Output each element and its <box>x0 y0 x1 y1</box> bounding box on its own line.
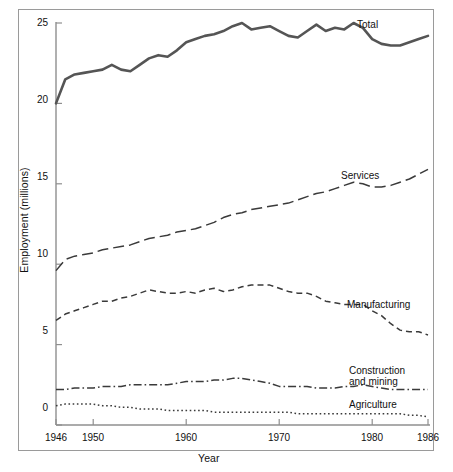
series-path-total <box>56 23 428 103</box>
y-tick-label-25: 25 <box>26 17 48 28</box>
series-label-manufacturing: Manufacturing <box>347 299 410 310</box>
x-tick-label-1946: 1946 <box>36 432 76 443</box>
y-tick-label-5: 5 <box>26 325 48 336</box>
x-tick-label-1980: 1980 <box>352 432 392 443</box>
x-tick-label-1986: 1986 <box>408 432 448 443</box>
x-tick-label-1960: 1960 <box>166 432 206 443</box>
series-label-services: Services <box>341 170 379 181</box>
series-layer <box>56 23 428 417</box>
x-tick-label-1970: 1970 <box>259 432 299 443</box>
y-tick-label-0: 0 <box>26 402 48 413</box>
series-label-agriculture: Agriculture <box>349 399 397 410</box>
employment-line-chart: 25 20 15 10 5 0 1946 1950 1960 1970 1980… <box>0 0 453 472</box>
x-axis-title: Year <box>198 452 220 464</box>
series-path-services <box>56 169 428 270</box>
y-tick-label-20: 20 <box>26 94 48 105</box>
series-label-construction: Construction <box>349 365 405 376</box>
series-path-manufacturing <box>56 285 428 335</box>
series-label-total: Total <box>357 19 378 30</box>
series-label-construction-line2: and mining <box>349 376 398 387</box>
y-axis-title: Employment (millions) <box>18 160 30 280</box>
x-tick-label-1950: 1950 <box>73 432 113 443</box>
